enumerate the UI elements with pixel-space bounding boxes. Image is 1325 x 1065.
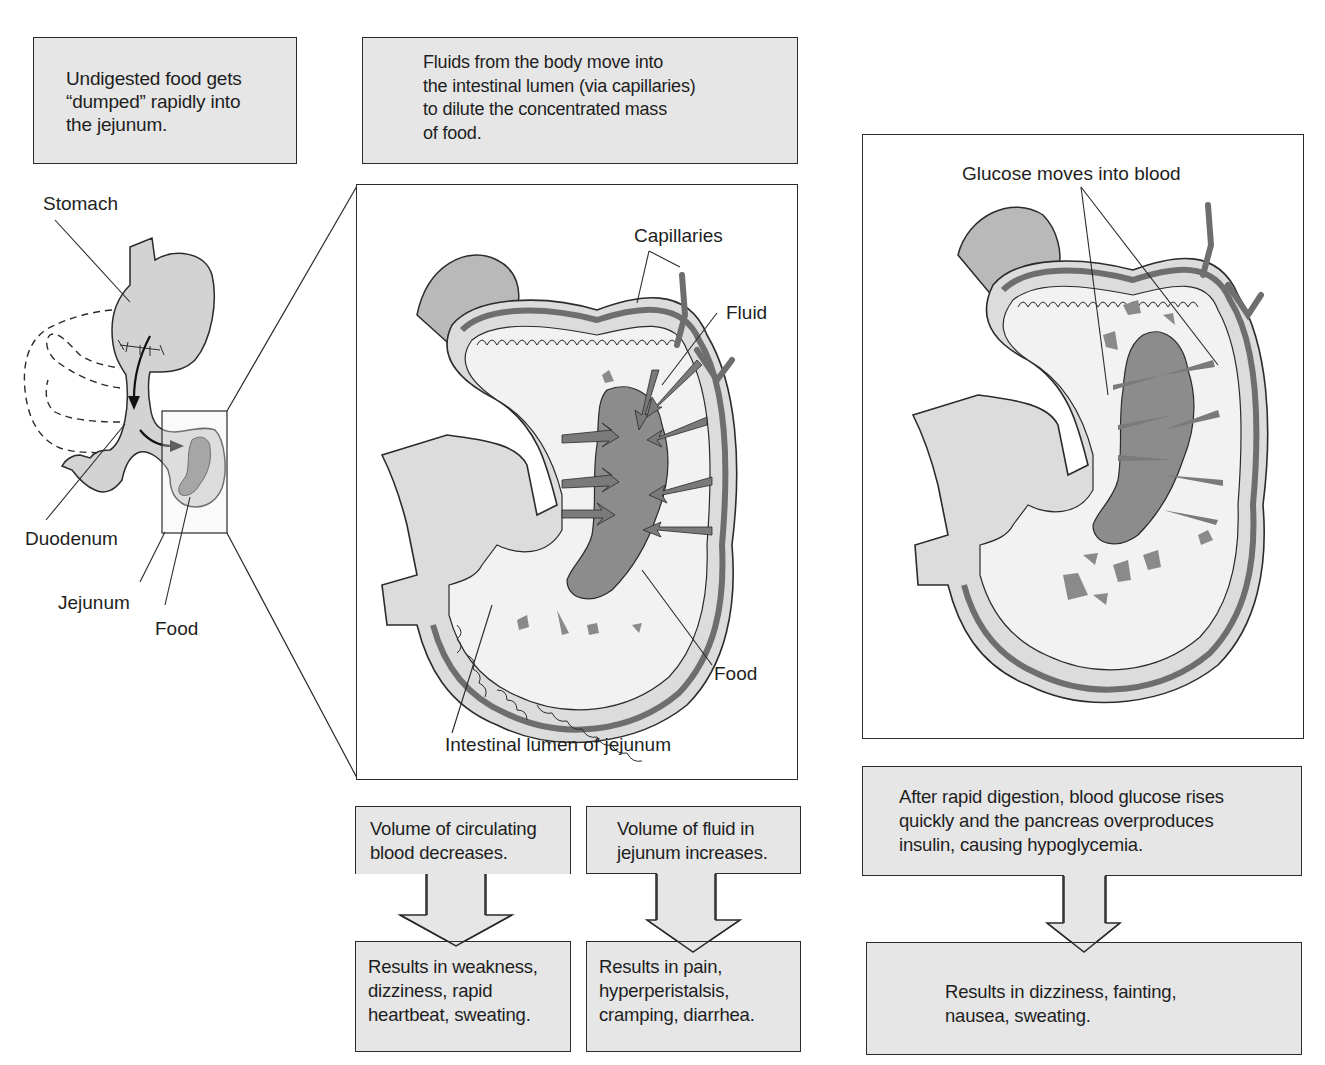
flow-arrows — [0, 0, 1325, 1065]
hypoglycemia-cause-text: After rapid digestion, blood glucose ris… — [899, 785, 1224, 857]
blood-volume-result-box: Results in weakness, dizziness, rapid he… — [355, 941, 571, 1052]
fluid-volume-result-box: Results in pain, hyperperistalsis, cramp… — [586, 941, 801, 1052]
fluid-volume-cause-box: Volume of fluid in jejunum increases. — [586, 806, 801, 874]
hypoglycemia-cause-box: After rapid digestion, blood glucose ris… — [862, 766, 1302, 876]
arrow-right-flow — [1047, 873, 1120, 952]
fluid-volume-cause-text: Volume of fluid in jejunum increases. — [617, 817, 768, 865]
hypoglycemia-result-text: Results in dizziness, fainting, nausea, … — [945, 980, 1176, 1028]
arrow-middle-flow — [647, 869, 740, 952]
blood-volume-result-text: Results in weakness, dizziness, rapid he… — [368, 955, 538, 1027]
arrow-left-flow — [400, 869, 512, 946]
hypoglycemia-result-box: Results in dizziness, fainting, nausea, … — [866, 942, 1302, 1055]
blood-volume-cause-text: Volume of circulating blood decreases. — [370, 817, 537, 865]
fluid-volume-result-text: Results in pain, hyperperistalsis, cramp… — [599, 955, 755, 1027]
blood-volume-cause-box: Volume of circulating blood decreases. — [355, 806, 571, 874]
